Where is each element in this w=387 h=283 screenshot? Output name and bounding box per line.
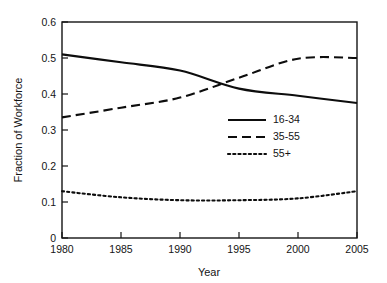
x-tick-label-2: 1990 xyxy=(168,243,192,255)
y-tick-label-0: 0 xyxy=(50,232,56,244)
legend-label-55-: 55+ xyxy=(273,147,291,159)
x-tick-label-0: 1980 xyxy=(50,243,74,255)
y-tick-label-6: 0.6 xyxy=(41,16,56,28)
x-tick-label-5: 2005 xyxy=(345,243,369,255)
data-series-group xyxy=(62,54,357,200)
chart-legend: 16-3435-5555+ xyxy=(228,113,300,159)
y-tick-label-5: 0.5 xyxy=(41,52,56,64)
y-axis-title: Fraction of Workforce xyxy=(12,78,24,183)
y-tick-label-4: 0.4 xyxy=(41,88,56,100)
x-tick-label-3: 1995 xyxy=(227,243,251,255)
x-axis-title: Year xyxy=(198,266,221,278)
y-tick-label-2: 0.2 xyxy=(41,160,56,172)
y-axis: 00.10.20.30.40.50.6 xyxy=(41,16,68,244)
x-tick-label-1: 1985 xyxy=(109,243,133,255)
series-line-55- xyxy=(62,191,357,200)
y-tick-label-1: 0.1 xyxy=(41,196,56,208)
plot-frame xyxy=(62,22,357,238)
x-tick-label-4: 2000 xyxy=(286,243,310,255)
line-chart: 00.10.20.30.40.50.6 19801985199019952000… xyxy=(0,0,387,283)
legend-label-16-34: 16-34 xyxy=(273,113,300,125)
series-line-35-55 xyxy=(62,57,357,117)
y-tick-label-3: 0.3 xyxy=(41,124,56,136)
x-axis: 198019851990199520002005 xyxy=(50,232,369,255)
legend-label-35-55: 35-55 xyxy=(273,130,300,142)
chart-figure: 00.10.20.30.40.50.6 19801985199019952000… xyxy=(0,0,387,283)
series-line-16-34 xyxy=(62,54,357,103)
